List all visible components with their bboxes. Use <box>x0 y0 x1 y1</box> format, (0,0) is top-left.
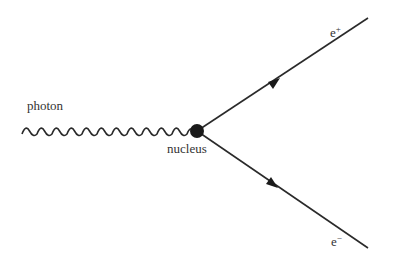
nucleus-label: nucleus <box>167 141 207 156</box>
photon-label: photon <box>27 98 64 113</box>
electron-label: e− <box>331 233 342 249</box>
electron-line <box>197 131 368 248</box>
photon-wave <box>22 128 194 135</box>
pair-production-diagram: photon nucleus e+ e− <box>0 0 398 261</box>
positron-line <box>197 18 368 131</box>
nucleus-dot <box>190 124 204 138</box>
